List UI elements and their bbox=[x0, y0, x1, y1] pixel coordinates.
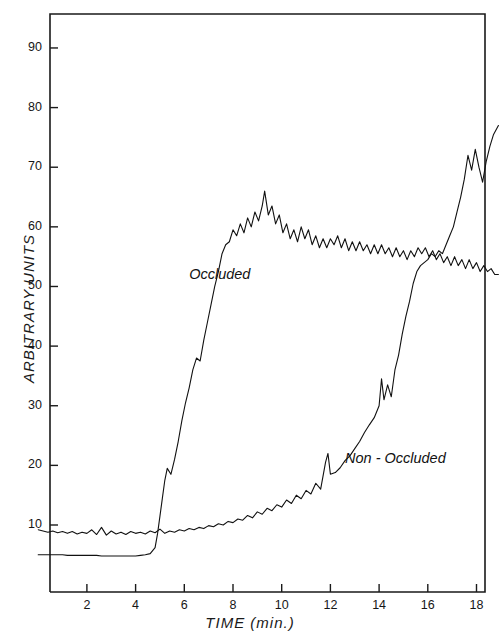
y-tick-label: 60 bbox=[12, 219, 42, 233]
x-tick-label: 6 bbox=[169, 598, 199, 612]
series-annotation-occluded: Occluded bbox=[189, 266, 250, 282]
y-tick-label: 30 bbox=[12, 398, 42, 412]
x-tick-label: 8 bbox=[218, 598, 248, 612]
series-lines bbox=[38, 125, 498, 556]
series-line-occluded bbox=[38, 191, 498, 556]
x-tick-label: 14 bbox=[364, 598, 394, 612]
y-tick-label: 20 bbox=[12, 457, 42, 471]
x-tick-label: 18 bbox=[462, 598, 492, 612]
line-chart-plot bbox=[0, 0, 502, 644]
series-line-non-occluded bbox=[38, 125, 498, 535]
series-annotation-non-occluded: Non - Occluded bbox=[345, 450, 446, 466]
y-tick-label: 90 bbox=[12, 40, 42, 54]
y-tick-label: 70 bbox=[12, 159, 42, 173]
x-tick-label: 12 bbox=[315, 598, 345, 612]
plot-frame bbox=[50, 14, 485, 592]
x-axis-title: TIME (min.) bbox=[150, 614, 350, 631]
y-tick-label: 10 bbox=[12, 517, 42, 531]
y-axis-title: ARBITRARY UNITS bbox=[20, 209, 37, 409]
y-tick-label: 40 bbox=[12, 338, 42, 352]
x-tick-label: 16 bbox=[413, 598, 443, 612]
x-tick-label: 10 bbox=[267, 598, 297, 612]
chart-figure: ARBITRARY UNITS TIME (min.) 102030405060… bbox=[0, 0, 502, 644]
x-tick-label: 2 bbox=[72, 598, 102, 612]
x-tick-label: 4 bbox=[121, 598, 151, 612]
axis-ticks bbox=[50, 48, 477, 592]
y-tick-label: 80 bbox=[12, 100, 42, 114]
y-tick-label: 50 bbox=[12, 278, 42, 292]
